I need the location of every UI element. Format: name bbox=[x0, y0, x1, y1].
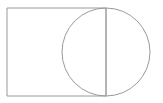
rectangle-shape bbox=[7, 8, 106, 96]
figure-canvas bbox=[0, 0, 163, 103]
geometry-figure bbox=[0, 0, 163, 103]
